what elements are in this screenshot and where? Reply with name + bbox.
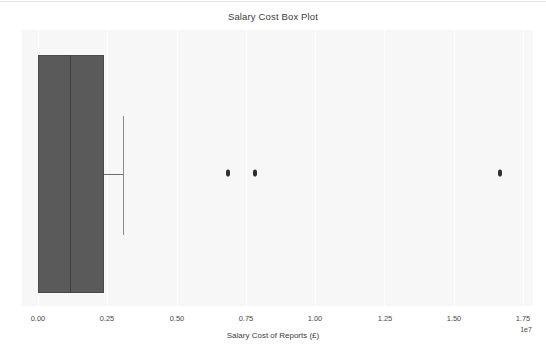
plot-area — [22, 30, 533, 306]
xtick-label-5: 1.25 — [378, 314, 393, 323]
page-top-rule — [0, 1, 546, 2]
xtick-label-4: 1.00 — [308, 314, 323, 323]
chart-figure: Salary Cost Box Plot 0.00 0.25 0.50 0.75… — [0, 0, 546, 356]
xtick-label-0: 0.00 — [31, 314, 46, 323]
whisker-cap-upper — [123, 116, 124, 235]
outlier-marker — [498, 170, 502, 177]
outlier-marker — [253, 170, 257, 177]
xtick-label-6: 1.50 — [447, 314, 462, 323]
xtick-label-1: 0.25 — [100, 314, 115, 323]
xaxis-label: Salary Cost of Reports (£) — [0, 331, 546, 340]
xtick-label-7: 1.75 — [516, 314, 531, 323]
xtick-label-3: 0.75 — [239, 314, 254, 323]
gridline-7 — [523, 30, 524, 306]
chart-title: Salary Cost Box Plot — [0, 11, 546, 22]
gridline-4 — [315, 30, 316, 306]
outlier-marker — [226, 170, 230, 177]
gridline-2 — [177, 30, 178, 306]
whisker-line-upper — [103, 174, 123, 175]
median-line — [70, 55, 71, 293]
gridline-6 — [454, 30, 455, 306]
gridline-5 — [384, 30, 385, 306]
xtick-label-2: 0.50 — [170, 314, 185, 323]
gridline-1 — [107, 30, 108, 306]
gridline-3 — [246, 30, 247, 306]
xaxis-exponent-label: 1e7 — [508, 326, 544, 333]
